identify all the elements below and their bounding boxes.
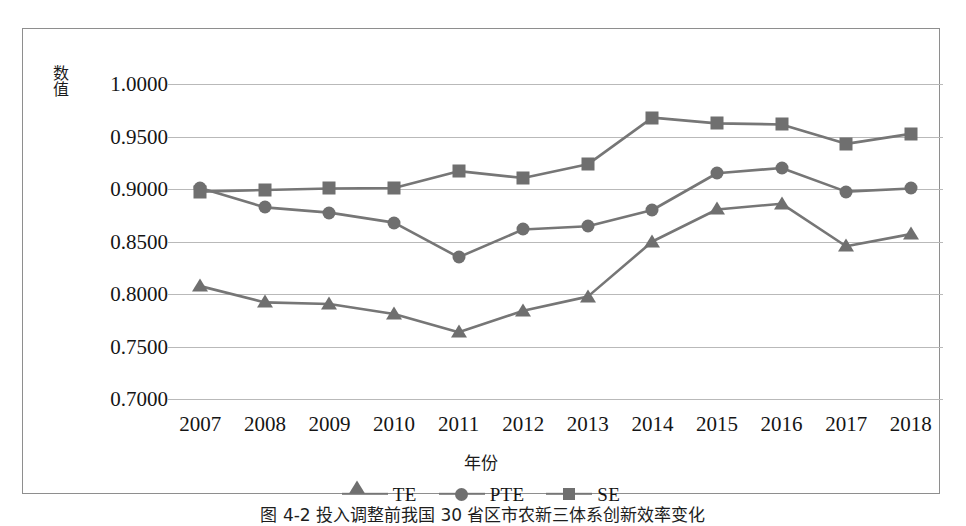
data-point-TE-2014 [644,234,660,247]
x-axis-title: 年份 [23,453,939,473]
y-tick-label: 0.8500 [110,232,168,253]
x-tick-label: 2014 [631,412,673,436]
data-point-PTE-2014 [646,204,659,217]
legend-marker-PTE-icon [439,487,485,501]
legend-label-TE: TE [393,485,417,504]
square-icon [563,488,575,500]
series-line-TE [200,204,910,333]
data-point-TE-2012 [515,303,531,316]
series-line-PTE [200,168,910,257]
y-tick-label: 0.9500 [110,127,168,148]
data-point-SE-2015 [710,117,723,130]
data-point-PTE-2013 [581,220,594,233]
data-point-PTE-2015 [710,167,723,180]
x-tick-label: 2016 [761,412,803,436]
circle-icon [455,488,468,501]
y-axis-tick-labels: 1.00000.95000.90000.85000.80000.75000.70… [78,69,168,414]
data-point-SE-2008 [258,184,271,197]
x-tick-label: 2013 [567,412,609,436]
y-tick-label: 0.8000 [110,284,168,305]
x-axis-tick-labels: 2007200820092010201120122013201420152016… [168,412,943,444]
data-point-PTE-2010 [388,216,401,229]
x-tick-label: 2015 [696,412,738,436]
data-point-SE-2012 [517,171,530,184]
x-tick-label: 2012 [502,412,544,436]
data-point-SE-2018 [904,127,917,140]
legend-label-SE: SE [597,485,620,504]
data-point-TE-2017 [838,239,854,252]
chart-frame: 数值 1.00000.95000.90000.85000.80000.75000… [22,28,940,494]
data-point-PTE-2017 [840,185,853,198]
figure-caption: 图 4-2 投入调整前我国 30 省区市农新三体系创新效率变化 [0,505,966,525]
legend-marker-SE-icon [546,487,592,501]
data-point-TE-2011 [451,325,467,338]
y-tick-label: 1.0000 [110,74,168,95]
data-point-PTE-2009 [323,206,336,219]
data-point-SE-2016 [775,118,788,131]
data-point-TE-2008 [257,295,273,308]
legend-item-PTE[interactable]: PTE [439,485,525,504]
data-point-TE-2016 [774,196,790,209]
x-tick-label: 2008 [244,412,286,436]
x-tick-label: 2017 [825,412,867,436]
data-point-TE-2015 [709,202,725,215]
data-point-PTE-2016 [775,162,788,175]
x-tick-label: 2007 [179,412,221,436]
legend-item-SE[interactable]: SE [546,485,620,504]
data-point-TE-2010 [386,306,402,319]
y-tick-label: 0.7000 [110,389,168,410]
series-lines [168,84,943,399]
figure-container: 数值 1.00000.95000.90000.85000.80000.75000… [0,0,966,526]
x-tick-label: 2010 [373,412,415,436]
data-point-TE-2018 [903,227,919,240]
chart-legend: TEPTESE [23,481,939,507]
data-point-PTE-2018 [904,182,917,195]
y-tick-label: 0.9000 [110,179,168,200]
data-point-PTE-2011 [452,251,465,264]
y-axis-title: 数值 [51,65,68,97]
legend-label-PTE: PTE [490,485,525,504]
gridline-0.7000 [168,399,943,400]
x-tick-label: 2009 [308,412,350,436]
data-point-SE-2009 [323,182,336,195]
legend-item-TE[interactable]: TE [342,485,417,504]
x-tick-label: 2011 [438,412,479,436]
data-point-SE-2010 [388,181,401,194]
y-tick-label: 0.7500 [110,337,168,358]
data-point-PTE-2008 [258,201,271,214]
data-point-SE-2007 [194,185,207,198]
triangle-icon [349,480,365,493]
data-point-TE-2007 [192,279,208,292]
plot-area [168,84,943,399]
data-point-SE-2013 [581,158,594,171]
data-point-TE-2013 [580,289,596,302]
series-line-SE [200,118,910,192]
data-point-SE-2017 [840,137,853,150]
data-point-SE-2011 [452,165,465,178]
data-point-PTE-2012 [517,223,530,236]
legend-marker-TE-icon [342,487,388,501]
data-point-SE-2014 [646,111,659,124]
x-tick-label: 2018 [890,412,932,436]
data-point-TE-2009 [321,296,337,309]
